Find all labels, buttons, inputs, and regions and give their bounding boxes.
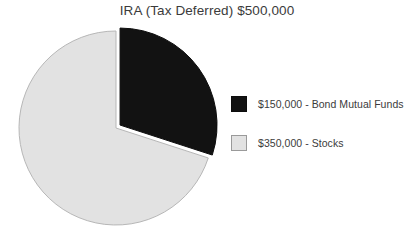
legend-swatch-bond-mutual-funds (231, 96, 247, 112)
pie-chart-figure: IRA (Tax Deferred) $500,000 $150,000 - B… (0, 0, 408, 242)
legend-swatch-stocks (231, 135, 247, 151)
pie-svg (0, 0, 240, 242)
legend-item-stocks[interactable]: $350,000 - Stocks (231, 131, 407, 155)
legend-item-bond-mutual-funds[interactable]: $150,000 - Bond Mutual Funds (231, 92, 407, 116)
legend-label-stocks: $350,000 - Stocks (258, 137, 344, 149)
chart-legend: $150,000 - Bond Mutual Funds $350,000 - … (231, 92, 407, 170)
pie-plot-area (0, 0, 240, 242)
legend-label-bond-mutual-funds: $150,000 - Bond Mutual Funds (258, 98, 404, 110)
